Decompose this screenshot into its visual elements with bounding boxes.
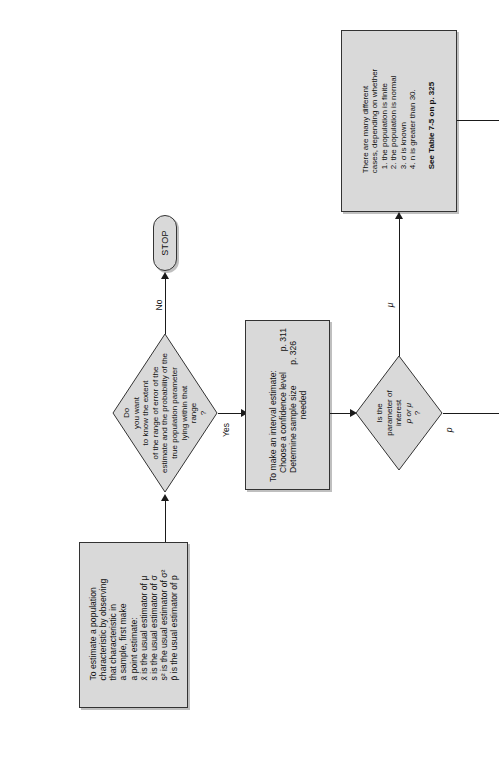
- edge-cases-continuation: [457, 120, 499, 121]
- ie-line-3-text: Determine sample size: [288, 386, 298, 482]
- pe-line-4: a sample, first make: [118, 570, 128, 681]
- edge-interval-to-decision-parameter: [330, 413, 352, 414]
- ie-ref-1: p. 311: [277, 328, 287, 351]
- edge-no-arrowhead: [161, 272, 169, 279]
- ie-line-1-text: To make an interval estimate:: [267, 370, 277, 482]
- edge-mu-arrowhead: [395, 212, 403, 219]
- dp-line-3: interest: [394, 390, 404, 435]
- node-cases-text: There are many different cases, dependin…: [361, 69, 436, 174]
- node-stop: STOP: [153, 215, 177, 271]
- cs-line-6: 4. n is greater than 30.: [409, 69, 418, 174]
- node-cases-box: There are many different cases, dependin…: [341, 30, 457, 212]
- edge-no-branch: [165, 278, 166, 334]
- node-decision-range: Do you want to know the extent of the ra…: [112, 333, 218, 493]
- node-interval-estimate-box: To make an interval estimate: Choose a c…: [245, 320, 330, 490]
- ie-line-4-text: needed: [298, 391, 308, 420]
- edge-label-mu: μ: [385, 303, 395, 308]
- pe-line-2: characteristic by observing: [98, 570, 108, 681]
- edge-mu-branch: [399, 218, 400, 356]
- pe-line-6: x̄ is the usual estimator of μ: [139, 570, 149, 681]
- node-decision-parameter-text: Is the parameter of interest p or μ ?: [375, 390, 423, 435]
- cs-spacer: [418, 69, 427, 174]
- ie-line-4: needed: [298, 328, 308, 482]
- edge-label-p: p: [444, 428, 454, 433]
- pe-line-1: To estimate a population: [88, 570, 98, 681]
- dr-line-1: Do: [122, 353, 132, 473]
- node-point-estimate-box: To estimate a population characteristic …: [79, 542, 188, 708]
- dr-line-2: you want: [131, 353, 141, 473]
- edge-point-estimate-to-decision: [165, 500, 166, 542]
- dr-line-7: lying within that: [179, 353, 189, 473]
- dr-line-9: ?: [199, 353, 209, 473]
- edge-point-estimate-arrowhead: [161, 494, 169, 501]
- pe-line-8: s² is the usual estimator of σ²: [159, 570, 169, 681]
- cs-line-4: 2. the population is normal: [390, 69, 399, 174]
- edge-label-yes: Yes: [221, 423, 231, 437]
- edge-p-branch: [443, 413, 499, 414]
- node-decision-range-text: Do you want to know the extent of the ra…: [122, 353, 208, 473]
- edge-label-no: No: [154, 300, 164, 311]
- dr-line-8: range: [189, 353, 199, 473]
- node-interval-estimate-text: To make an interval estimate: Choose a c…: [267, 328, 308, 482]
- cs-footer: See Table 7-5 on p. 325: [427, 69, 436, 174]
- dp-line-2: parameter of: [385, 390, 395, 435]
- ie-ref-2: p. 326: [288, 341, 298, 365]
- ie-line-2-text: Choose a confidence level: [277, 372, 287, 482]
- pe-line-5: a point estimate:: [128, 570, 138, 681]
- pe-line-7: s is the usual estimator of σ: [149, 570, 159, 681]
- pe-line-3: that characteristic in: [108, 570, 118, 681]
- flowchart-canvas: START To estimate a population character…: [0, 0, 499, 766]
- node-decision-parameter: Is the parameter of interest p or μ ?: [355, 355, 443, 471]
- ie-line-2: Choose a confidence level p. 311: [277, 328, 287, 482]
- cs-line-1: There are many different: [361, 69, 370, 174]
- ie-line-1: To make an interval estimate:: [267, 328, 277, 482]
- dr-line-3: to know the extent: [141, 353, 151, 473]
- dp-line-1: Is the: [375, 390, 385, 435]
- dr-line-4: of the range of error of the: [151, 353, 161, 473]
- cs-line-3: 1. the population is finite: [380, 69, 389, 174]
- dr-line-6: true population parameter: [170, 353, 180, 473]
- cs-line-2: cases, depending on whether: [371, 69, 380, 174]
- dp-line-5: ?: [413, 390, 423, 435]
- node-point-estimate-text: To estimate a population characteristic …: [88, 570, 179, 681]
- edge-yes-branch: [218, 413, 243, 414]
- ie-line-3: Determine sample size p. 326: [288, 328, 298, 482]
- dr-line-5: estimate and the probability of the: [160, 353, 170, 473]
- dp-line-4: p or μ: [404, 390, 414, 435]
- node-stop-label: STOP: [160, 230, 170, 256]
- cs-line-5: 3. σ is known: [399, 69, 408, 174]
- pe-line-9: p̄ is the usual estimator of p: [169, 570, 179, 681]
